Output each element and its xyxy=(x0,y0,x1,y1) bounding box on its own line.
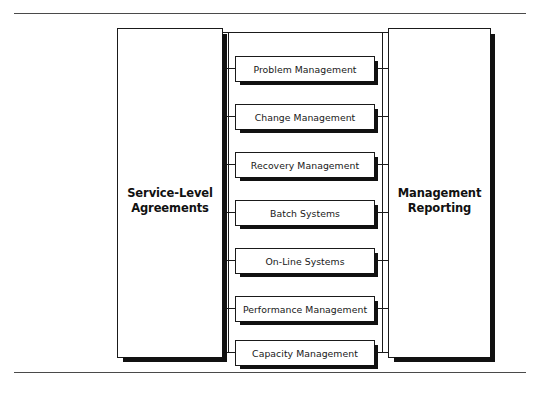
node-label-management-reporting: Management Reporting xyxy=(389,186,490,215)
node-label-service-level-agreements: Service-Level Agreements xyxy=(118,186,222,215)
node-recovery-management[interactable]: Recovery Management xyxy=(235,152,375,178)
service-shadow-bottom xyxy=(240,321,378,325)
pillar-left-shadow-bottom xyxy=(123,357,227,362)
node-label: Batch Systems xyxy=(270,208,340,219)
label-line-1: Service-Level xyxy=(118,186,222,201)
connector-top-span xyxy=(222,32,390,33)
label-line-2: Reporting xyxy=(389,201,490,216)
node-service-level-agreements[interactable]: Service-Level Agreements xyxy=(117,28,223,358)
node-label: Recovery Management xyxy=(251,160,359,171)
node-management-reporting[interactable]: Management Reporting xyxy=(388,28,491,358)
node-performance-management[interactable]: Performance Management xyxy=(235,296,375,322)
connector-right-trunk xyxy=(382,32,383,352)
node-capacity-management[interactable]: Capacity Management xyxy=(235,340,375,366)
service-shadow-bottom xyxy=(240,273,378,277)
pillar-right-shadow-right xyxy=(490,34,495,362)
service-shadow-bottom xyxy=(240,81,378,85)
node-on-line-systems[interactable]: On-Line Systems xyxy=(235,248,375,274)
node-change-management[interactable]: Change Management xyxy=(235,104,375,130)
page-rule-top xyxy=(14,13,526,14)
node-problem-management[interactable]: Problem Management xyxy=(235,56,375,82)
service-shadow-bottom xyxy=(240,177,378,181)
connector-left-trunk xyxy=(228,32,229,352)
node-label: Problem Management xyxy=(253,64,356,75)
label-line-2: Agreements xyxy=(118,201,222,216)
node-label: Performance Management xyxy=(243,304,367,315)
pillar-right-shadow-bottom xyxy=(394,357,495,362)
node-label: Capacity Management xyxy=(252,348,358,359)
node-label: On-Line Systems xyxy=(265,256,344,267)
node-batch-systems[interactable]: Batch Systems xyxy=(235,200,375,226)
service-shadow-bottom xyxy=(240,129,378,133)
diagram-canvas: Service-Level Agreements Management Repo… xyxy=(0,0,539,400)
label-line-1: Management xyxy=(389,186,490,201)
pillar-left-shadow-right xyxy=(222,34,227,362)
service-shadow-bottom xyxy=(240,365,378,369)
page-rule-bottom xyxy=(14,372,526,373)
node-label: Change Management xyxy=(255,112,356,123)
service-shadow-bottom xyxy=(240,225,378,229)
